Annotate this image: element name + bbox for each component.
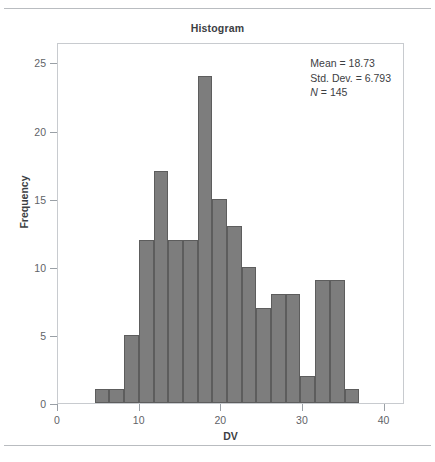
y-axis-tick-label: 25 xyxy=(0,57,46,69)
y-axis-tick xyxy=(50,63,57,64)
y-axis-title: Frequency xyxy=(18,152,30,252)
plot-frame: Mean = 18.73 Std. Dev. = 6.793 N = 145 xyxy=(57,43,404,404)
n-value: = 145 xyxy=(318,86,348,98)
histogram-bar xyxy=(315,280,330,403)
histogram-bar xyxy=(95,389,110,403)
y-axis-tick-label: 5 xyxy=(0,330,46,342)
y-axis-tick xyxy=(50,200,57,201)
histogram-bar xyxy=(227,226,242,403)
x-axis-tick xyxy=(302,404,303,411)
y-axis-tick xyxy=(50,268,57,269)
histogram-bar xyxy=(300,376,315,403)
y-axis-tick-label: 20 xyxy=(0,126,46,138)
x-axis-title: DV xyxy=(57,430,404,442)
histogram-bar xyxy=(242,267,257,403)
histogram-bar xyxy=(330,280,345,403)
histogram-bar xyxy=(139,240,154,403)
histogram-page: Histogram 0510152025 Frequency Mean = 18… xyxy=(0,0,435,462)
x-axis-tick-label: 40 xyxy=(364,414,404,426)
n-label: N = 145 xyxy=(310,85,391,100)
x-axis-tick-label: 30 xyxy=(282,414,322,426)
y-axis-tick xyxy=(50,336,57,337)
histogram-bar xyxy=(183,240,198,403)
histogram-bar xyxy=(286,294,301,403)
top-divider xyxy=(4,8,431,9)
histogram-bar xyxy=(109,389,124,403)
n-symbol: N xyxy=(310,86,318,98)
x-axis-tick xyxy=(384,404,385,411)
x-axis-tick-label: 20 xyxy=(200,414,240,426)
y-axis-tick-label: 10 xyxy=(0,262,46,274)
histogram-bar xyxy=(271,294,286,403)
chart-title: Histogram xyxy=(0,22,435,34)
x-axis-tick xyxy=(57,404,58,411)
histogram-bar xyxy=(168,240,183,403)
mean-label: Mean = 18.73 xyxy=(310,56,391,71)
histogram-bar xyxy=(124,335,139,403)
bottom-divider xyxy=(4,445,431,446)
y-axis-tick xyxy=(50,404,57,405)
x-axis-tick-label: 10 xyxy=(119,414,159,426)
x-axis-tick xyxy=(220,404,221,411)
histogram-bar xyxy=(345,389,360,403)
statistics-annotation: Mean = 18.73 Std. Dev. = 6.793 N = 145 xyxy=(310,56,391,100)
histogram-bar xyxy=(154,171,169,403)
histogram-bar xyxy=(256,308,271,403)
histogram-bar xyxy=(198,76,213,403)
y-axis-tick xyxy=(50,132,57,133)
std-dev-label: Std. Dev. = 6.793 xyxy=(310,71,391,86)
y-axis-tick-label: 0 xyxy=(0,398,46,410)
x-axis-tick-label: 0 xyxy=(37,414,77,426)
x-axis-tick xyxy=(139,404,140,411)
histogram-bar xyxy=(212,199,227,403)
